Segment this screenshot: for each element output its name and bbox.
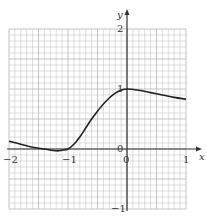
- tick-x-1: 1: [183, 155, 189, 165]
- tick-x-0: 0: [123, 155, 129, 165]
- tick-y-2: 2: [117, 24, 123, 34]
- tick-y-neg1: −1: [111, 204, 126, 214]
- tick-y-0: 0: [117, 144, 123, 154]
- y-axis-label: y: [117, 10, 123, 20]
- line-chart: [0, 0, 207, 219]
- y-axis-arrow-icon: [125, 9, 130, 15]
- tick-x-neg2: −2: [3, 155, 18, 165]
- x-axis-label: x: [199, 152, 205, 162]
- grid: [9, 29, 186, 209]
- tick-y-1: 1: [117, 84, 123, 94]
- tick-x-neg1: −1: [62, 155, 77, 165]
